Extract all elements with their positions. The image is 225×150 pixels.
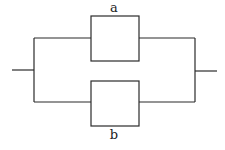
parallel-circuit-diagram: a b [0, 0, 225, 150]
component-b-label: b [110, 127, 118, 142]
component-b-box [91, 81, 139, 126]
component-a-box [91, 16, 139, 61]
component-a-label: a [110, 0, 118, 15]
